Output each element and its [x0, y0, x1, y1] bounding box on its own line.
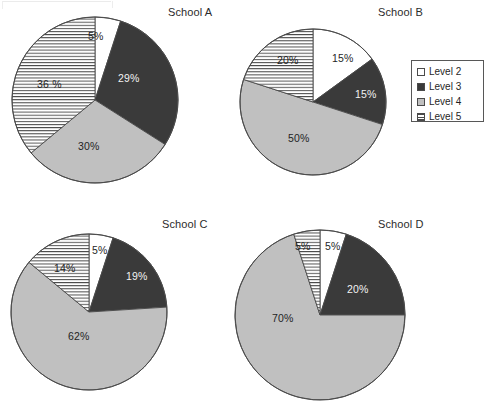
legend-item-level-2[interactable]: Level 2 [417, 65, 483, 79]
legend-label-level-3: Level 3 [429, 82, 461, 92]
slice-label-a-level5: 36 % [37, 78, 62, 90]
pie-chart-figure: School A 5% 29% 30% 36 % School B 15% 15… [0, 0, 490, 406]
legend-label-level-5: Level 5 [429, 112, 461, 122]
legend-swatch-white-icon [417, 68, 425, 76]
legend-label-level-2: Level 2 [429, 67, 461, 77]
pie-title-school-a: School A [168, 6, 212, 18]
slice-label-b-level4: 50% [288, 132, 310, 144]
slice-label-d-level4: 70% [272, 312, 294, 324]
slice-label-b-level5: 20% [277, 54, 299, 66]
pie-title-school-b: School B [378, 6, 423, 18]
slice-label-a-level2: 5% [88, 30, 104, 42]
legend-swatch-striped-icon [417, 113, 425, 121]
slice-label-c-level2: 5% [92, 244, 108, 256]
slice-label-c-level3: 19% [126, 270, 148, 282]
legend-box: Level 2 Level 3 Level 4 Level 5 [411, 60, 484, 122]
slice-label-c-level5: 14% [54, 262, 76, 274]
slice-label-b-level3: 15% [355, 88, 377, 100]
slice-label-d-level2: 5% [325, 240, 341, 252]
legend-item-level-5[interactable]: Level 5 [417, 110, 483, 124]
slice-label-b-level2: 15% [332, 52, 354, 64]
slice-label-a-level4: 30% [78, 140, 100, 152]
slice-label-d-level3: 20% [347, 283, 369, 295]
slice-label-c-level4: 62% [68, 330, 90, 342]
legend-item-level-4[interactable]: Level 4 [417, 95, 483, 109]
pie-title-school-c: School C [162, 218, 207, 230]
legend-swatch-dark-icon [417, 83, 425, 91]
slice-label-d-level5: 5% [295, 240, 311, 252]
legend-label-level-4: Level 4 [429, 97, 461, 107]
pie-title-school-d: School D [378, 218, 423, 230]
legend-swatch-gray-icon [417, 98, 425, 106]
slice-label-a-level3: 29% [118, 72, 140, 84]
legend-item-level-3[interactable]: Level 3 [417, 80, 483, 94]
